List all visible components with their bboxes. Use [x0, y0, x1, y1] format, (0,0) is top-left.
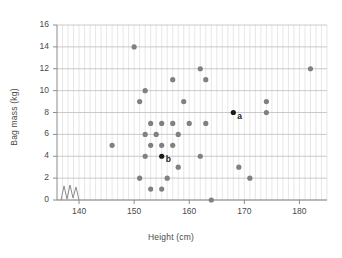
data-point[interactable] — [143, 88, 148, 93]
x-tick-label: 140 — [64, 206, 94, 216]
data-point[interactable] — [236, 165, 241, 170]
axis-break-icon — [61, 185, 79, 200]
data-point[interactable] — [203, 121, 208, 126]
data-point[interactable] — [187, 121, 192, 126]
data-point[interactable] — [132, 44, 137, 49]
data-point[interactable] — [308, 66, 313, 71]
data-point[interactable] — [170, 77, 175, 82]
point-label-b: b — [166, 154, 171, 164]
data-point[interactable] — [170, 143, 175, 148]
x-tick-label: 180 — [284, 206, 314, 216]
y-tick-label: 0 — [29, 194, 49, 204]
data-point[interactable] — [165, 176, 170, 181]
data-point[interactable] — [159, 121, 164, 126]
point-label-a: a — [237, 111, 242, 121]
data-point[interactable] — [231, 110, 236, 115]
plot-area — [0, 0, 342, 258]
scatter-chart: Bag mass (kg) Height (cm) 14015016017018… — [0, 0, 342, 258]
data-point[interactable] — [137, 176, 142, 181]
data-point[interactable] — [176, 165, 181, 170]
data-point[interactable] — [110, 143, 115, 148]
data-point[interactable] — [148, 121, 153, 126]
data-point[interactable] — [159, 186, 164, 191]
y-tick-label: 8 — [29, 107, 49, 117]
y-tick-label: 10 — [29, 85, 49, 95]
data-point[interactable] — [203, 77, 208, 82]
data-point[interactable] — [176, 132, 181, 137]
data-point[interactable] — [154, 132, 159, 137]
data-point[interactable] — [159, 143, 164, 148]
y-tick-label: 12 — [29, 63, 49, 73]
x-tick-label: 160 — [174, 206, 204, 216]
x-tick-label: 150 — [119, 206, 149, 216]
data-point[interactable] — [159, 154, 164, 159]
data-point[interactable] — [170, 121, 175, 126]
y-tick-label: 16 — [29, 19, 49, 29]
data-point[interactable] — [198, 66, 203, 71]
data-point[interactable] — [264, 110, 269, 115]
data-point[interactable] — [181, 99, 186, 104]
y-tick-label: 6 — [29, 128, 49, 138]
data-point[interactable] — [143, 154, 148, 159]
data-point[interactable] — [143, 132, 148, 137]
data-point[interactable] — [264, 99, 269, 104]
data-point[interactable] — [148, 143, 153, 148]
y-tick-label: 4 — [29, 150, 49, 160]
x-tick-label: 170 — [229, 206, 259, 216]
data-point[interactable] — [247, 176, 252, 181]
major-gridlines-horizontal — [57, 25, 327, 200]
data-point[interactable] — [209, 197, 214, 202]
data-point[interactable] — [137, 99, 142, 104]
data-point[interactable] — [148, 186, 153, 191]
y-tick-label: 2 — [29, 172, 49, 182]
y-tick-label: 14 — [29, 41, 49, 51]
data-point[interactable] — [198, 154, 203, 159]
